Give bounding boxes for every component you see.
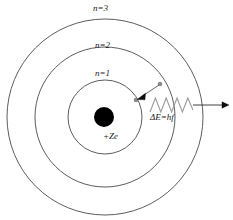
shell-label-n2: n=2 [95, 41, 110, 50]
shell-label-n3: n=3 [93, 4, 108, 13]
photon-direction-arrow [193, 102, 229, 108]
photon-energy-label: ΔE=hf [150, 113, 174, 122]
nucleus [94, 107, 114, 127]
bohr-model-diagram: n=3 n=2 n=1 +Ze ΔE=hf [0, 0, 233, 220]
shell-label-n1: n=1 [95, 69, 110, 78]
electron-end-dot [134, 98, 139, 103]
nucleus-charge-label: +Ze [103, 132, 118, 141]
diagram-canvas [0, 0, 233, 220]
photon-wave [150, 98, 193, 112]
